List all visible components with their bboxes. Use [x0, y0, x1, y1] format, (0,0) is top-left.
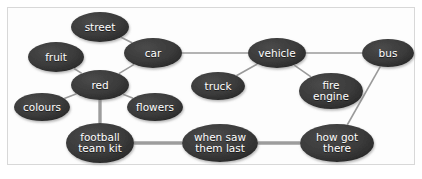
edge-red-colours	[64, 94, 76, 99]
node-colours[interactable]	[14, 93, 70, 121]
node-fruit[interactable]	[28, 42, 84, 72]
node-car[interactable]	[124, 38, 182, 68]
nodes-layer	[14, 12, 414, 163]
node-street[interactable]	[71, 12, 129, 42]
diagram-canvas: streetfruitcarredcoloursflowerstruckvehi…	[0, 0, 422, 179]
edge-truck-vehicle	[236, 64, 257, 76]
node-whensaw[interactable]	[182, 124, 258, 162]
node-howgot[interactable]	[300, 124, 374, 162]
node-truck[interactable]	[191, 72, 245, 100]
node-bus[interactable]	[362, 39, 414, 67]
node-vehicle[interactable]	[248, 38, 306, 68]
edge-car-red	[119, 64, 134, 73]
node-fire[interactable]	[299, 73, 363, 109]
edge-street-car	[121, 37, 132, 42]
edge-vehicle-fire	[294, 65, 311, 77]
node-flowers[interactable]	[127, 93, 183, 121]
graph-svg	[0, 0, 422, 179]
edge-fruit-red	[74, 68, 82, 73]
node-red[interactable]	[71, 70, 129, 100]
edge-red-flowers	[123, 94, 133, 98]
node-football[interactable]	[66, 123, 134, 163]
